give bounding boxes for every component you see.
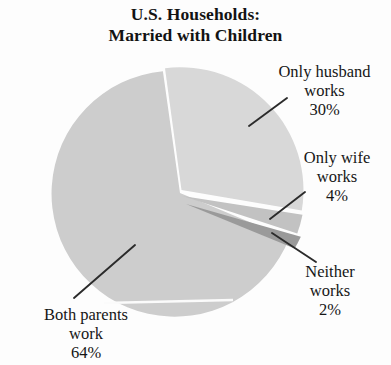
- callout-line-1: Only wife: [283, 148, 391, 167]
- callout-line-1: Both parents: [6, 305, 166, 324]
- callout-line-2: work: [6, 324, 166, 343]
- callout-line-2: works: [278, 281, 382, 300]
- callout-value: 30%: [258, 100, 391, 119]
- callout-only-wife-works: Only wife works 4%: [283, 148, 391, 205]
- callout-only-husband-works: Only husband works 30%: [258, 62, 391, 119]
- callout-line-2: works: [258, 81, 391, 100]
- callout-line-2: works: [283, 167, 391, 186]
- callout-value: 4%: [283, 186, 391, 205]
- callout-both-parents-work: Both parents work 64%: [6, 305, 166, 362]
- pie-chart-figure: U.S. Households: Married with Children: [0, 0, 391, 365]
- callout-value: 64%: [6, 343, 166, 362]
- callout-line-1: Neither: [278, 262, 382, 281]
- callout-value: 2%: [278, 300, 382, 319]
- callout-line-1: Only husband: [258, 62, 391, 81]
- callout-neither-works: Neither works 2%: [278, 262, 382, 319]
